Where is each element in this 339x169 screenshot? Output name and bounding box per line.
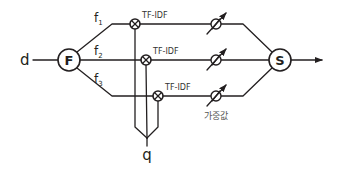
- branch-1-wire-out: [221, 24, 272, 52]
- branch-3-wire-in: [77, 68, 153, 96]
- multiplier-1-label: TF-IDF: [141, 11, 168, 20]
- branch-1-wire-in: [77, 24, 130, 52]
- query-wire-2: [146, 65, 147, 138]
- sum-node: S: [269, 49, 291, 71]
- multiplier-2: TF-IDF: [141, 47, 179, 65]
- branch-3-feature-label: f3: [94, 72, 103, 88]
- query-wire-1: [135, 29, 147, 138]
- tf-idf-weighting-diagram: d F f1 f2 f3 q TF-IDF: [0, 0, 339, 169]
- multiplier-1: TF-IDF: [130, 11, 168, 29]
- branch-3-wire-out: [221, 68, 272, 96]
- branch-1-feature-label: f1: [94, 11, 103, 27]
- weight-label: 가중값: [204, 110, 228, 121]
- query-label: q: [142, 146, 152, 164]
- multiplier-3: TF-IDF: [153, 83, 191, 101]
- input-label: d: [20, 51, 30, 69]
- multiplier-3-label: TF-IDF: [164, 83, 191, 92]
- branch-2-feature-label: f2: [94, 44, 103, 60]
- branch-1: f1: [77, 11, 272, 52]
- sum-node-label: S: [275, 53, 284, 68]
- feature-node-label: F: [65, 53, 74, 68]
- query-wire-3: [147, 101, 158, 138]
- multiplier-2-label: TF-IDF: [152, 47, 179, 56]
